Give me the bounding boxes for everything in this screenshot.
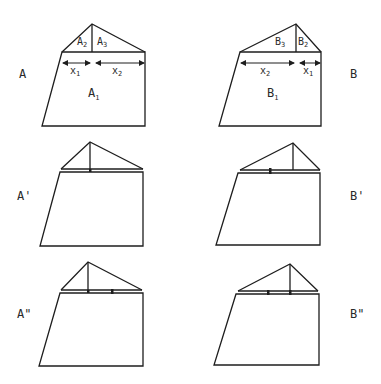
panel-b-double-prime-shape	[214, 264, 319, 365]
area-a2-label: A2	[77, 36, 87, 49]
joint-marker	[289, 290, 292, 295]
area-b1-label: B1	[267, 86, 278, 102]
panel-b-double-prime-label: B"	[350, 307, 364, 321]
panel-b-prime-body	[216, 173, 320, 245]
panel-b-prime-roof	[240, 143, 320, 170]
joint-marker	[111, 289, 114, 294]
dim-x2-label: x2	[112, 65, 122, 78]
panel-a-prime-roof	[61, 142, 143, 169]
panel-a-label: A	[19, 67, 27, 81]
diagram-canvas: A A2 A3 x1 x2 A1 B B3 B2 x2 x1 B1 A' B' …	[0, 0, 381, 384]
dim-x1-label: x1	[70, 65, 80, 78]
dim-x1-label: x1	[303, 65, 313, 78]
panel-a-prime-shape	[40, 142, 143, 246]
panel-b-prime-label: B'	[350, 189, 364, 203]
joint-marker	[87, 290, 90, 293]
area-b2-label: B2	[298, 36, 308, 49]
panel-a-prime-label: A'	[17, 189, 31, 203]
panel-a-double-prime-body	[39, 293, 143, 366]
panel-a-prime-body	[40, 172, 143, 246]
panel-a-double-prime-label: A"	[17, 307, 31, 321]
area-a1-label: A1	[88, 86, 99, 102]
panel-a-shape	[42, 24, 145, 126]
dim-x2-label: x2	[260, 65, 270, 78]
panel-b-prime-shape	[216, 143, 320, 245]
panel-b-double-prime-body	[214, 294, 319, 365]
panel-a-double-prime-roof	[61, 262, 142, 290]
joint-marker	[269, 168, 272, 174]
panel-b-double-prime-roof	[238, 264, 318, 291]
area-b3-label: B3	[275, 36, 285, 49]
joint-marker	[89, 169, 92, 172]
joint-marker	[267, 290, 270, 295]
panel-b-label: B	[350, 67, 357, 81]
area-a3-label: A3	[97, 36, 107, 49]
panel-a-double-prime-shape	[39, 262, 143, 366]
